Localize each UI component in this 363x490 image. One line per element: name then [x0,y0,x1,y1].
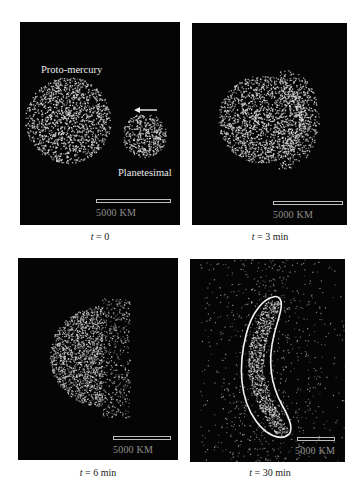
panel-t0: Proto-mercury Planetesimal 5000 KM [20,22,180,225]
caption-text: = 30 min [252,467,291,478]
caption-t30: t = 30 min [190,467,350,478]
proto-mercury-label: Proto-mercury [41,64,102,75]
panel-t6: 5000 KM [18,258,178,460]
panel-t3: 5000 KM [192,23,347,225]
scale-label: 5000 KM [113,444,153,455]
scale-label: 5000 KM [96,207,136,218]
scale-bar [113,436,171,440]
particles-t3 [192,23,347,225]
caption-text: = 3 min [255,231,289,242]
scale-bar [96,199,171,203]
scale-label: 5000 KM [273,209,313,220]
scale-bar [273,201,343,205]
caption-text: = 6 min [83,467,117,478]
scale-label: 5000 KM [295,445,335,456]
scale-bar [297,437,335,441]
debris-outline [190,259,345,462]
arrow-left-icon [134,106,158,114]
panel-t30: 5000 KM [190,259,345,462]
planetesimal-label: Planetesimal [118,167,172,178]
particles-t6 [18,258,178,460]
particles-t0 [20,22,180,225]
caption-t6: t = 6 min [18,467,178,478]
caption-t0: t = 0 [20,231,180,242]
caption-t3: t = 3 min [190,231,350,242]
caption-text: = 0 [94,231,110,242]
